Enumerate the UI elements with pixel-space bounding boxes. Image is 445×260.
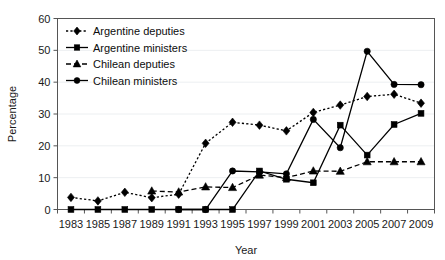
x-tick-label: 1993 bbox=[193, 218, 217, 230]
data-point-square bbox=[418, 110, 424, 116]
data-point-circle bbox=[391, 81, 397, 87]
x-tick-label: 2005 bbox=[355, 218, 379, 230]
data-point-square bbox=[310, 180, 316, 186]
data-point-triangle bbox=[202, 183, 210, 190]
data-point-circle bbox=[229, 168, 235, 174]
data-point-circle bbox=[418, 82, 424, 88]
data-point-circle bbox=[310, 116, 316, 122]
y-tick-label: 10 bbox=[38, 172, 50, 184]
data-point-diamond bbox=[337, 101, 344, 110]
x-tick-labels: 1983198519871989199119931995199719992001… bbox=[59, 218, 434, 230]
x-tick-label: 1983 bbox=[59, 218, 83, 230]
y-tick-labels: 0102030405060 bbox=[38, 13, 50, 216]
x-tick-label: 1989 bbox=[140, 218, 164, 230]
data-point-diamond bbox=[67, 193, 74, 202]
data-point-square bbox=[337, 122, 343, 128]
data-point-square bbox=[74, 45, 79, 50]
legend-item-argentine-deputies[interactable]: Argentine deputies bbox=[66, 25, 185, 37]
data-point-square bbox=[391, 122, 397, 128]
y-axis-title: Percentage bbox=[6, 86, 18, 142]
data-point-diamond bbox=[364, 92, 371, 101]
data-point-diamond bbox=[94, 197, 101, 206]
series-line bbox=[71, 94, 421, 201]
data-point-circle bbox=[176, 206, 182, 212]
data-point-circle bbox=[256, 169, 262, 175]
data-point-triangle bbox=[148, 187, 156, 194]
y-tick-label: 50 bbox=[38, 44, 50, 56]
x-tick-label: 1997 bbox=[247, 218, 271, 230]
legend-label: Chilean ministers bbox=[93, 75, 178, 87]
x-tick-label: 1985 bbox=[86, 218, 110, 230]
data-point-diamond bbox=[256, 121, 263, 129]
data-point-square bbox=[68, 207, 74, 213]
data-point-circle bbox=[74, 78, 80, 84]
x-tick-label: 1999 bbox=[274, 218, 298, 230]
data-point-diamond bbox=[229, 118, 236, 127]
series-chilean-ministers bbox=[176, 48, 425, 212]
y-tick-marks bbox=[54, 19, 58, 210]
x-tick-label: 2001 bbox=[301, 218, 325, 230]
data-point-diamond bbox=[148, 193, 155, 202]
data-point-square bbox=[230, 207, 236, 213]
data-point-circle bbox=[337, 145, 343, 151]
data-point-diamond bbox=[418, 99, 425, 108]
y-tick-label: 40 bbox=[38, 76, 50, 88]
data-point-square bbox=[122, 207, 128, 213]
x-tick-label: 2003 bbox=[328, 218, 352, 230]
data-point-diamond bbox=[283, 127, 290, 136]
legend-label: Argentine deputies bbox=[93, 25, 185, 37]
chart-legend: Argentine deputiesArgentine ministersChi… bbox=[66, 25, 188, 87]
x-tick-label: 1991 bbox=[166, 218, 190, 230]
data-point-circle bbox=[364, 48, 370, 54]
legend-item-chilean-deputies[interactable]: Chilean deputies bbox=[66, 58, 175, 70]
data-point-diamond bbox=[391, 90, 398, 99]
chart-figure: 0102030405060 19831985198719891991199319… bbox=[0, 0, 445, 260]
data-point-diamond bbox=[310, 108, 317, 117]
x-tick-label: 2007 bbox=[382, 218, 406, 230]
y-tick-label: 60 bbox=[38, 13, 50, 25]
x-tick-label: 1995 bbox=[220, 218, 244, 230]
data-point-circle bbox=[202, 206, 208, 212]
series-group bbox=[67, 48, 425, 212]
legend-item-argentine-ministers[interactable]: Argentine ministers bbox=[66, 42, 188, 54]
x-tick-label: 2009 bbox=[409, 218, 433, 230]
x-axis-title: Year bbox=[235, 244, 258, 256]
data-point-diamond bbox=[74, 27, 81, 35]
series-line bbox=[179, 51, 421, 209]
legend-item-chilean-ministers[interactable]: Chilean ministers bbox=[66, 75, 178, 87]
y-tick-label: 20 bbox=[38, 140, 50, 152]
series-argentine-deputies bbox=[67, 90, 424, 205]
data-point-diamond bbox=[121, 188, 128, 197]
data-point-square bbox=[95, 207, 101, 213]
line-chart: 0102030405060 19831985198719891991199319… bbox=[0, 0, 445, 260]
x-tick-label: 1987 bbox=[113, 218, 137, 230]
y-tick-label: 30 bbox=[38, 108, 50, 120]
legend-label: Argentine ministers bbox=[93, 42, 188, 54]
data-point-square bbox=[149, 207, 155, 213]
legend-label: Chilean deputies bbox=[93, 58, 175, 70]
y-tick-label: 0 bbox=[44, 204, 50, 216]
data-point-circle bbox=[283, 171, 289, 177]
